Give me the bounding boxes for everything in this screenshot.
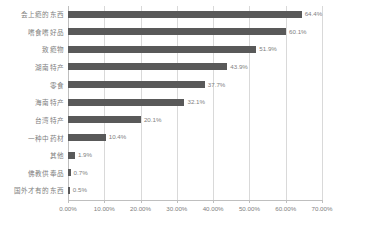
bar (68, 99, 184, 106)
bar-row: 51.9% (68, 41, 322, 57)
x-axis-ticks (68, 200, 322, 203)
category-label: 海南特产 (35, 94, 64, 110)
bar (68, 11, 302, 18)
x-tick-label: 70.00% (312, 205, 333, 212)
bar-row: 0.5% (68, 182, 322, 198)
x-tick (249, 200, 250, 203)
x-tick (177, 200, 178, 203)
category-label: 台湾特产 (35, 112, 64, 128)
bar-row: 37.7% (68, 77, 322, 93)
x-tick-label: 0.00% (59, 205, 77, 212)
bar (68, 134, 106, 141)
bar (68, 81, 205, 88)
category-axis: 会上瘾的东西嗜食嗜好品致瘾物湖南特产零食海南特产台湾特产一种中药材其他佛教供奉品… (0, 6, 64, 200)
bar-value-label: 64.4% (305, 11, 323, 17)
category-label: 国外才有的东西 (14, 182, 64, 198)
bar-row: 10.4% (68, 129, 322, 145)
bar-value-label: 32.1% (187, 99, 205, 105)
x-tick (104, 200, 105, 203)
x-tick (213, 200, 214, 203)
gridline (322, 6, 323, 200)
category-label: 佛教供奉品 (28, 165, 64, 181)
bar-value-label: 37.7% (208, 82, 226, 88)
category-label: 致瘾物 (42, 41, 64, 57)
x-tick-label: 60.00% (275, 205, 296, 212)
x-tick (322, 200, 323, 203)
bar (68, 28, 286, 35)
bar-row: 32.1% (68, 94, 322, 110)
bar-chart: 会上瘾的东西嗜食嗜好品致瘾物湖南特产零食海南特产台湾特产一种中药材其他佛教供奉品… (0, 0, 366, 237)
bar-value-label: 10.4% (109, 134, 127, 140)
bar-row: 60.1% (68, 24, 322, 40)
bar-value-label: 0.7% (74, 170, 88, 176)
x-tick-label: 50.00% (239, 205, 260, 212)
bar (68, 46, 256, 53)
bar (68, 116, 141, 123)
bar-row: 64.4% (68, 6, 322, 22)
bar-value-label: 1.9% (78, 152, 92, 158)
x-tick-label: 10.00% (94, 205, 115, 212)
bar-value-label: 51.9% (259, 46, 277, 52)
category-label: 零食 (50, 77, 64, 93)
bar (68, 63, 227, 70)
plot-area: 64.4%60.1%51.9%43.9%37.7%32.1%20.1%10.4%… (68, 6, 322, 200)
x-tick (286, 200, 287, 203)
x-axis-tick-labels: 0.00%10.00%20.00%30.00%40.00%50.00%60.00… (68, 205, 322, 217)
x-tick (141, 200, 142, 203)
bar-series: 64.4%60.1%51.9%43.9%37.7%32.1%20.1%10.4%… (68, 6, 322, 200)
x-tick-label: 20.00% (130, 205, 151, 212)
bar-value-label: 43.9% (230, 64, 248, 70)
x-tick-label: 40.00% (203, 205, 224, 212)
bar-value-label: 0.5% (73, 187, 87, 193)
category-label: 一种中药材 (28, 129, 64, 145)
bar (68, 169, 71, 176)
bar-row: 20.1% (68, 112, 322, 128)
category-label: 嗜食嗜好品 (28, 24, 64, 40)
bar-row: 1.9% (68, 147, 322, 163)
category-label: 其他 (50, 147, 64, 163)
bar (68, 152, 75, 159)
bar-value-label: 20.1% (144, 117, 162, 123)
category-label: 会上瘾的东西 (21, 6, 64, 22)
bar-row: 0.7% (68, 165, 322, 181)
x-tick-label: 30.00% (166, 205, 187, 212)
x-tick (68, 200, 69, 203)
bar-value-label: 60.1% (289, 29, 307, 35)
bar-row: 43.9% (68, 59, 322, 75)
bar (68, 187, 70, 194)
category-label: 湖南特产 (35, 59, 64, 75)
